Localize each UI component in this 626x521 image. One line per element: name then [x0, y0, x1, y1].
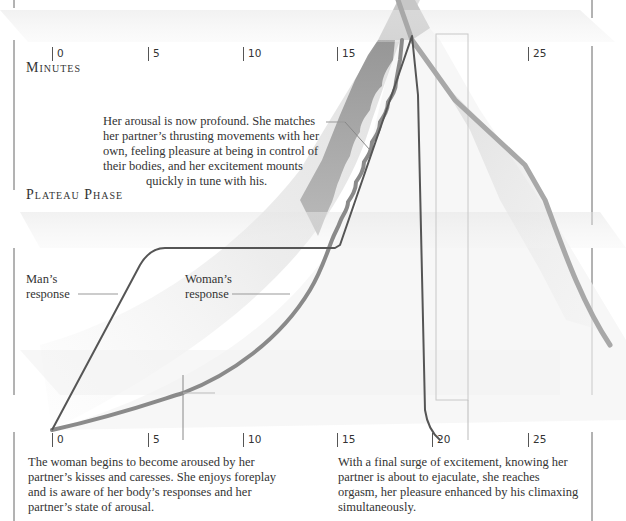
- plateau-phase-label: Plateau Phase: [26, 187, 123, 203]
- bottom-tick-25: 25: [528, 433, 546, 447]
- orgasm-annotation-line: simultaneously.: [338, 500, 598, 515]
- bottom-tick-15: 15: [337, 433, 355, 447]
- bottom-tick-5: 5: [148, 433, 160, 447]
- arousal-annotation: The woman begins to become aroused by he…: [28, 455, 318, 515]
- woman-response-label: Woman’s response: [185, 272, 232, 302]
- plateau-annotation-line: their bodies, and her excitement mounts: [103, 159, 343, 174]
- plateau-annotation-line: own, feeling pleasure at being in contro…: [103, 144, 343, 159]
- man-response-label: Man’s response: [26, 272, 70, 302]
- man-response-label-line2: response: [26, 287, 70, 302]
- orgasm-annotation-line: With a final surge of excitement, knowin…: [338, 455, 598, 470]
- arousal-annotation-line: partner’s kisses and caresses. She enjoy…: [28, 470, 318, 485]
- bottom-tick-10: 10: [243, 433, 261, 447]
- plateau-band: [20, 212, 626, 248]
- top-band: [0, 10, 615, 42]
- plateau-annotation-line: quickly in tune with his.: [103, 174, 343, 189]
- plateau-annotation: Her arousal is now profound. She matches…: [103, 114, 343, 189]
- orgasm-annotation: With a final surge of excitement, knowin…: [338, 455, 598, 515]
- top-tick-5: 5: [148, 47, 160, 61]
- orgasm-annotation-line: partner is about to ejaculate, she reach…: [338, 470, 598, 485]
- arousal-annotation-line: and is aware of her body’s responses and…: [28, 485, 318, 500]
- bottom-band: [20, 350, 560, 395]
- orgasm-annotation-line: orgasm, her pleasure enhanced by his cli…: [338, 485, 598, 500]
- top-tick-15: 15: [337, 47, 355, 61]
- minutes-label: Minutes: [26, 60, 81, 76]
- bottom-tick-0: 0: [52, 433, 64, 447]
- plateau-annotation-line: Her arousal is now profound. She matches: [103, 114, 343, 129]
- man-response-label-line1: Man’s: [26, 272, 70, 287]
- plateau-annotation-line: her partner’s thrusting movements with h…: [103, 129, 343, 144]
- woman-response-label-line2: response: [185, 287, 232, 302]
- arousal-annotation-line: partner’s state of arousal.: [28, 500, 318, 515]
- top-tick-10: 10: [243, 47, 261, 61]
- top-tick-0: 0: [52, 47, 64, 61]
- bottom-tick-20: 20: [432, 433, 450, 447]
- top-tick-25: 25: [528, 47, 546, 61]
- arousal-annotation-line: The woman begins to become aroused by he…: [28, 455, 318, 470]
- woman-response-label-line1: Woman’s: [185, 272, 232, 287]
